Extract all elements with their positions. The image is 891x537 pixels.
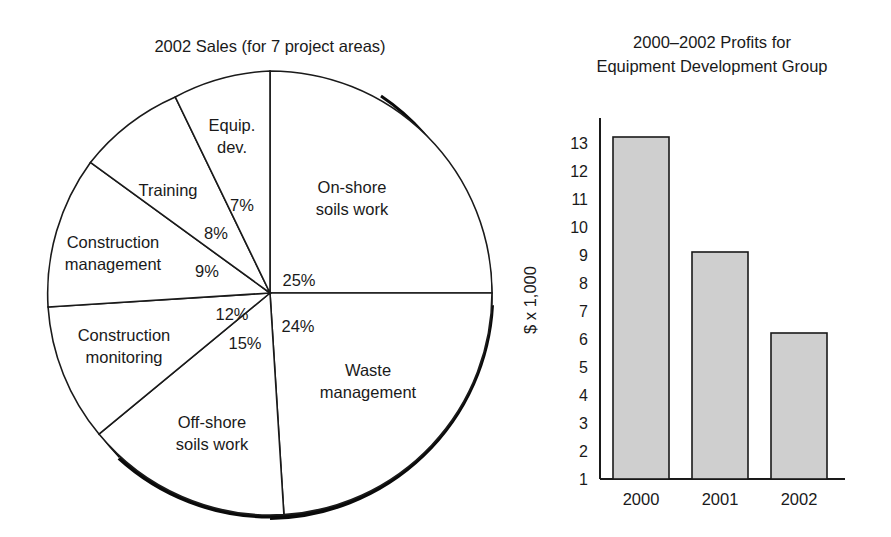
pie-chart: 2002 Sales (for 7 project areas) On-shor… (48, 37, 492, 515)
pie-label-equip-dev-line2: dev. (217, 138, 247, 156)
x-category-2000: 2000 (623, 490, 660, 508)
pie-pct-constr-monitoring: 12% (215, 305, 248, 323)
y-tick-3: 3 (579, 415, 588, 432)
y-tick-4: 4 (579, 387, 588, 404)
y-tick-12: 12 (570, 163, 588, 180)
bar-chart-y-ticks: 13 12 11 10 9 8 7 6 5 4 3 2 1 (570, 135, 588, 488)
pie-label-waste-line2: management (320, 383, 417, 401)
y-tick-10: 10 (570, 219, 588, 236)
pie-label-off-shore-line1: Off-shore (178, 413, 246, 431)
y-tick-13: 13 (570, 135, 588, 152)
pie-label-constr-monitoring-line1: Construction (78, 326, 171, 344)
y-tick-9: 9 (579, 247, 588, 264)
bar-2001[interactable] (692, 252, 748, 479)
pie-pct-on-shore: 25% (282, 271, 315, 289)
figure-canvas: 2002 Sales (for 7 project areas) On-shor… (0, 0, 891, 537)
pie-label-on-shore-line2: soils work (316, 200, 389, 218)
pie-pct-waste: 24% (281, 317, 314, 335)
bar-chart-title-line1: 2000–2002 Profits for (633, 33, 791, 51)
y-tick-2: 2 (579, 443, 588, 460)
y-tick-6: 6 (579, 331, 588, 348)
pie-label-training: Training (139, 181, 198, 199)
pie-label-on-shore-line1: On-shore (318, 178, 387, 196)
bar-2000[interactable] (613, 137, 669, 479)
pie-pct-constr-management: 9% (195, 262, 219, 280)
pie-label-constr-monitoring-line2: monitoring (85, 348, 162, 366)
y-tick-7: 7 (579, 303, 588, 320)
pie-pct-equip-dev: 7% (230, 196, 254, 214)
y-tick-5: 5 (579, 359, 588, 376)
bar-chart: 2000–2002 Profits for Equipment Developm… (521, 33, 845, 508)
x-category-2002: 2002 (781, 490, 818, 508)
bar-chart-y-axis-label: $ x 1,000 (521, 266, 539, 334)
pie-pct-training: 8% (204, 224, 228, 242)
bar-chart-title-line2: Equipment Development Group (596, 57, 827, 75)
y-tick-8: 8 (579, 275, 588, 292)
y-tick-11: 11 (571, 191, 588, 208)
bar-2002[interactable] (771, 333, 827, 479)
pie-pct-off-shore: 15% (228, 334, 261, 352)
pie-chart-title: 2002 Sales (for 7 project areas) (154, 37, 385, 55)
x-category-2001: 2001 (702, 490, 739, 508)
pie-label-constr-management-line1: Construction (67, 233, 160, 251)
pie-label-waste-line1: Waste (345, 361, 391, 379)
pie-label-off-shore-line2: soils work (176, 435, 249, 453)
pie-label-constr-management-line2: management (65, 255, 162, 273)
pie-label-equip-dev-line1: Equip. (209, 116, 256, 134)
y-tick-1: 1 (579, 471, 588, 488)
